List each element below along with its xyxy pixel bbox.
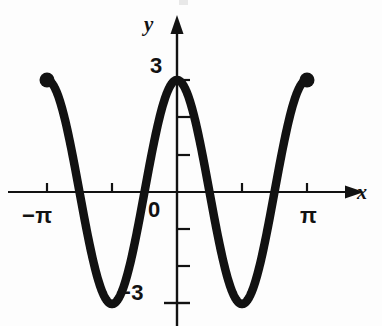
origin-label: 0 (148, 199, 161, 221)
y-tick-label-3: 3 (150, 55, 163, 77)
y-tick-label-negative-3: −3 (118, 282, 144, 304)
x-axis (8, 186, 364, 199)
left-endpoint-dot (40, 73, 55, 88)
x-tick-label-pi: π (300, 205, 317, 227)
x-axis-label: x (357, 182, 367, 202)
x-tick-label-negative-pi: −π (22, 205, 53, 227)
right-endpoint-dot (300, 73, 315, 88)
graph-figure: y x 3 −3 0 −π π (0, 0, 382, 326)
y-axis-label: y (144, 14, 153, 35)
coordinate-plot (0, 0, 382, 326)
y-axis (171, 15, 184, 326)
